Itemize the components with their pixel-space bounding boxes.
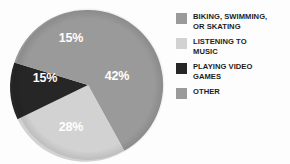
pie-slice-label-playing-video-games: 15%: [33, 71, 58, 85]
legend-label-biking-swimming-skating: Biking, swimming, or skating: [193, 12, 267, 32]
legend-swatch-icon-biking-swimming-skating: [176, 13, 187, 24]
pie-slice-label-other: 15%: [59, 31, 84, 45]
legend-swatch-icon-other: [176, 88, 187, 99]
legend-item-playing-video-games[interactable]: Playing video games: [176, 62, 290, 82]
legend-label-playing-video-games: Playing video games: [193, 62, 252, 82]
chart-legend: Biking, swimming, or skating Listening t…: [176, 12, 290, 99]
legend-swatch-icon-listening-to-music: [176, 38, 187, 49]
pie-slice-label-listening-to-music: 28%: [59, 120, 84, 134]
pie-chart-figure: 42% 28% 15% 15% Biking, swimming, or ska…: [0, 0, 290, 164]
legend-swatch-icon-playing-video-games: [176, 63, 187, 74]
legend-item-listening-to-music[interactable]: Listening to music: [176, 37, 290, 57]
legend-label-listening-to-music: Listening to music: [193, 37, 247, 57]
legend-item-other[interactable]: Other: [176, 87, 290, 99]
legend-item-biking-swimming-skating[interactable]: Biking, swimming, or skating: [176, 12, 290, 32]
pie-slice-label-biking-swimming-skating: 42%: [105, 69, 130, 83]
pie-chart-svg: 42% 28% 15% 15%: [0, 0, 172, 164]
legend-label-other: Other: [193, 87, 220, 97]
pie-chart-plot-area: 42% 28% 15% 15%: [0, 0, 172, 164]
